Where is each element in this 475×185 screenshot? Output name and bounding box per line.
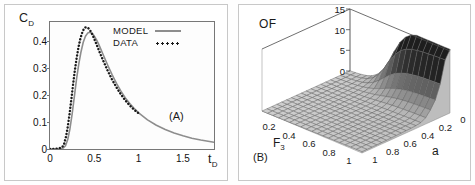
panel-b-f3tick-2: 0.6 xyxy=(302,138,315,149)
panel-b-atick-2: 0.4 xyxy=(421,130,434,141)
panel-b-f3tick-1: 0.4 xyxy=(282,129,295,140)
legend-swatch-solid-line xyxy=(155,30,181,32)
legend-swatch-dotted-line xyxy=(155,42,181,45)
legend-item-model: MODEL xyxy=(113,25,181,37)
legend-label-model: MODEL xyxy=(113,25,155,37)
panel-b-ztick-0: 0 xyxy=(325,66,345,77)
panel-a-ytick-4: 0.4 xyxy=(13,35,47,46)
panel-a-tag: (A) xyxy=(169,110,184,122)
panel-a-xtick-1: 0.5 xyxy=(87,153,101,164)
panel-a-y-ticks: 00.10.20.30.4 xyxy=(9,21,47,150)
panel-a-ytick-2: 0.2 xyxy=(13,89,47,100)
panel-b-ztick-3: 15 xyxy=(325,4,345,15)
panel-a-ytick-3: 0.3 xyxy=(13,62,47,73)
panel-a-xtick-0: 0 xyxy=(47,153,53,164)
panel-a-xtick-3: 1.5 xyxy=(176,153,190,164)
legend-label-data: DATA xyxy=(113,37,155,49)
panel-b-f3tick-0: 0.2 xyxy=(262,121,275,132)
panel-b-surface-chart: OF F3 a (B) 0510150.20.40.60.8100.20.40.… xyxy=(238,4,471,181)
panel-a-series-model xyxy=(50,32,214,149)
panel-b-tag: (B) xyxy=(253,151,268,163)
figure-container: CD tD 00.10.20.30.4 00.511.5 MODEL DATA … xyxy=(0,0,475,185)
panel-b-atick-1: 0.2 xyxy=(439,122,452,133)
panel-a-ytick-0: 0 xyxy=(13,144,47,155)
panel-a-x-ticks: 00.511.5 xyxy=(49,151,215,167)
panel-a-xtick-2: 1 xyxy=(136,153,142,164)
panel-a-line-chart: CD tD 00.10.20.30.4 00.511.5 MODEL DATA … xyxy=(4,4,228,181)
panel-b-ztick-2: 10 xyxy=(325,24,345,35)
panel-a-legend: MODEL DATA xyxy=(113,25,181,49)
legend-item-data: DATA xyxy=(113,37,181,49)
panel-b-f3tick-4: 1 xyxy=(346,155,351,166)
panel-b-atick-3: 0.6 xyxy=(404,138,417,149)
panel-b-ztick-1: 5 xyxy=(325,45,345,56)
panel-b-atick-5: 1 xyxy=(372,154,377,165)
panel-b-atick-4: 0.8 xyxy=(386,146,399,157)
panel-a-ytick-1: 0.1 xyxy=(13,116,47,127)
panel-b-y-axis-label: a xyxy=(432,144,439,158)
panel-b-z-axis-label: OF xyxy=(259,17,276,31)
panel-b-atick-0: 0 xyxy=(460,114,465,125)
panel-b-f3tick-3: 0.8 xyxy=(322,146,335,157)
